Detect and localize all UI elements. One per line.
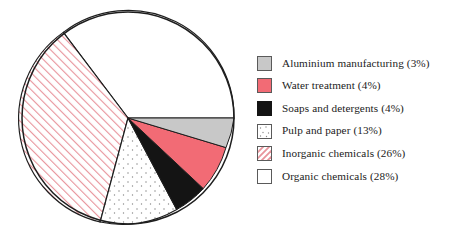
- pie-chart-figure: Aluminium manufacturing (3%) Water treat…: [0, 0, 453, 238]
- pie-chart-graphic: [0, 0, 250, 238]
- pie-svg: [0, 0, 250, 238]
- legend-swatch-hatch-icon: [257, 146, 272, 161]
- legend: Aluminium manufacturing (3%) Water treat…: [257, 52, 453, 188]
- legend-swatch-white-icon: [257, 169, 272, 184]
- legend-label: Organic chemicals (28%): [282, 171, 398, 182]
- legend-label: Pulp and paper (13%): [282, 125, 382, 136]
- legend-swatch-pink-icon: [257, 78, 272, 93]
- legend-swatch-gray-icon: [257, 56, 272, 71]
- legend-swatch-black-icon: [257, 101, 272, 116]
- legend-label: Soaps and detergents (4%): [282, 103, 404, 114]
- legend-label: Inorganic chemicals (26%): [282, 148, 405, 159]
- legend-item-organic-chemicals[interactable]: Organic chemicals (28%): [257, 165, 453, 188]
- legend-item-water-treatment[interactable]: Water treatment (4%): [257, 75, 453, 98]
- legend-item-pulp-and-paper[interactable]: Pulp and paper (13%): [257, 120, 453, 143]
- legend-item-soaps-and-detergents[interactable]: Soaps and detergents (4%): [257, 97, 453, 120]
- legend-label: Water treatment (4%): [282, 80, 381, 91]
- hatch-pattern-icon: [258, 147, 271, 160]
- dots-pattern-icon: [258, 125, 271, 138]
- legend-label: Aluminium manufacturing (3%): [282, 58, 430, 69]
- legend-swatch-dots-icon: [257, 124, 272, 139]
- legend-item-aluminium-manufacturing[interactable]: Aluminium manufacturing (3%): [257, 52, 453, 75]
- legend-item-inorganic-chemicals[interactable]: Inorganic chemicals (26%): [257, 142, 453, 165]
